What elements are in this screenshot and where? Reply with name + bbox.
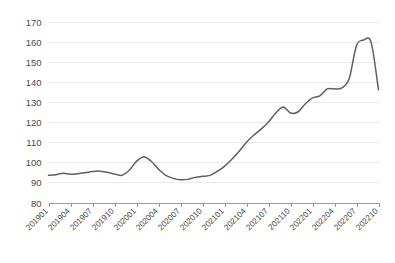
y-axis-tick-label: 140 [26,77,42,88]
x-axis-tick-label: 202001 [112,206,138,232]
y-axis-tick-label: 170 [26,17,42,28]
x-axis-tick-label: 202010 [178,206,204,232]
data-series [49,38,379,180]
x-axis-tick-label: 201904 [46,206,72,232]
x-axis [49,203,380,207]
chart-canvas: 1701601501401301201101009080 20190120190… [0,0,395,263]
y-axis-tick-label: 130 [26,97,42,108]
y-axis-tick-label: 160 [26,37,42,48]
y-axis-tick-label: 80 [31,198,42,209]
x-axis-tick-label: 202004 [134,206,160,232]
x-axis-tick-label: 202007 [156,206,182,232]
y-axis-tick-label: 110 [26,137,41,148]
x-axis-tick-label: 201901 [24,206,50,232]
x-axis-tick-label: 202104 [222,206,248,232]
x-axis-tick-label: 202107 [244,206,270,232]
x-axis-tick-label: 202207 [332,206,358,232]
y-axis-tick-label: 120 [26,117,42,128]
x-axis-tick-label: 202201 [288,206,314,232]
y-axis-tick-label: 150 [26,57,42,68]
x-axis-tick-label: 201907 [68,206,94,232]
series-line-1 [49,38,379,180]
gridlines [49,23,379,183]
y-axis-tick-label: 90 [31,177,42,188]
line-chart: 1701601501401301201101009080 20190120190… [0,0,395,263]
x-axis-tick-label: 202210 [354,206,380,232]
x-axis-tick-label: 202101 [200,206,226,232]
x-axis-tick-labels: 2019012019042019072019102020012020042020… [24,206,380,232]
x-axis-tick-label: 201910 [90,206,116,232]
y-axis-tick-labels: 1701601501401301201101009080 [26,17,42,209]
y-axis-tick-label: 100 [26,157,42,168]
x-axis-tick-label: 202110 [267,206,293,232]
x-axis-tick-label: 202204 [310,206,336,232]
